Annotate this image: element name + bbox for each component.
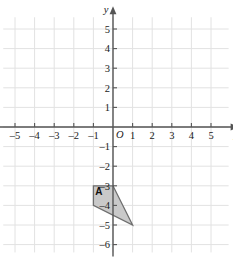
y-axis-tick-label: 3 bbox=[105, 63, 110, 74]
x-axis-tick-label: 4 bbox=[189, 130, 195, 141]
shape-label-A: A bbox=[95, 186, 102, 197]
x-axis-tick-label: –1 bbox=[87, 130, 99, 141]
y-axis-tick-label: –6 bbox=[99, 239, 111, 250]
y-axis-arrow-icon bbox=[110, 6, 117, 14]
x-axis-tick-label: –3 bbox=[48, 130, 60, 141]
y-axis-tick-label: 4 bbox=[105, 43, 111, 54]
origin-label: O bbox=[116, 129, 124, 140]
x-axis-label: x bbox=[232, 131, 233, 142]
x-axis-arrow-icon bbox=[231, 124, 233, 131]
x-axis-tick-label: –2 bbox=[68, 130, 80, 141]
coordinate-plane-svg: –5–4–3–2–11234554321–1–2–3–4–5–6OxyA bbox=[0, 0, 233, 258]
x-axis-tick-label: 3 bbox=[169, 130, 174, 141]
y-axis-tick-label: 2 bbox=[105, 83, 110, 94]
coordinate-plane-figure: –5–4–3–2–11234554321–1–2–3–4–5–6OxyA Coo… bbox=[0, 0, 233, 258]
y-axis-tick-label: –2 bbox=[99, 161, 111, 172]
y-axis-tick-label: 5 bbox=[105, 24, 110, 35]
x-axis-tick-label: –4 bbox=[28, 130, 40, 141]
y-axis-label: y bbox=[103, 4, 109, 15]
y-axis-tick-label: –5 bbox=[99, 220, 111, 231]
x-axis-tick-label: 2 bbox=[150, 130, 155, 141]
y-axis-tick-label: –1 bbox=[99, 141, 111, 152]
y-axis-tick-label: 1 bbox=[105, 102, 110, 113]
x-axis-tick-label: 1 bbox=[130, 130, 135, 141]
y-axis-tick-label: –4 bbox=[99, 200, 111, 211]
x-axis-tick-label: –5 bbox=[9, 130, 21, 141]
x-axis-tick-label: 5 bbox=[208, 130, 213, 141]
